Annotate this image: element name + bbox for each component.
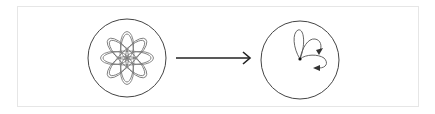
- loop-lower-right: [300, 55, 326, 68]
- petal-ellipse-0: [120, 34, 134, 82]
- petal-ellipse-90: [103, 51, 151, 65]
- loop-vertical: [294, 30, 304, 59]
- right-panel: [261, 21, 339, 99]
- petal-ellipse-45: [105, 36, 149, 80]
- direction-arrowhead-left-icon: [313, 65, 320, 71]
- transform-arrow: [176, 52, 250, 64]
- origin-dot: [298, 57, 301, 60]
- rose-petals: [101, 32, 154, 85]
- diagram-canvas: [0, 0, 435, 114]
- left-boundary-circle: [88, 19, 166, 97]
- direction-arrowhead-down-icon: [316, 48, 323, 55]
- left-panel: [88, 19, 166, 97]
- petal-ellipse-135: [105, 36, 149, 80]
